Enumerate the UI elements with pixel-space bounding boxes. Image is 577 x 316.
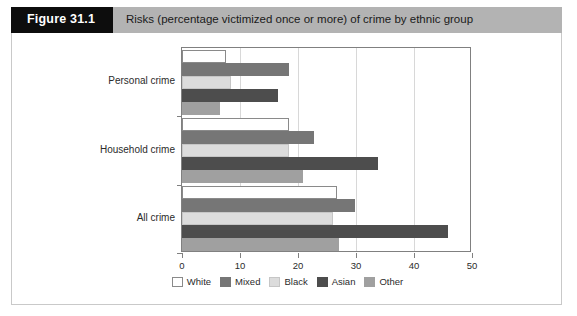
legend-label-mixed: Mixed (235, 276, 260, 287)
x-axis-tick-30 (356, 253, 357, 258)
bar-personal-crime-white (182, 50, 226, 63)
bar-personal-crime-asian (182, 89, 278, 102)
legend-label-other: Other (379, 276, 403, 287)
figure-caption: Risks (percentage victimized once or mor… (126, 13, 473, 25)
gridline-30 (356, 48, 357, 251)
category-label-all-crime: All crime (137, 212, 175, 223)
x-axis-label-50: 50 (467, 260, 478, 271)
x-axis-tick-0 (182, 253, 183, 258)
figure-number-box: Figure 31.1 (11, 7, 113, 33)
figure-header-band: Figure 31.1 Risks (percentage victimized… (11, 7, 562, 33)
legend-swatch-asian-icon (317, 277, 328, 287)
category-axis-labels: Personal crimeHousehold crimeAll crime (12, 47, 175, 252)
x-axis-tick-50 (472, 253, 473, 258)
legend-swatch-white-icon (172, 277, 183, 287)
figure-number-label: Figure 31.1 (27, 12, 95, 26)
legend-label-black: Black (284, 276, 307, 287)
y-axis-tick (177, 116, 182, 117)
gridline-40 (414, 48, 415, 251)
legend-item-other[interactable]: Other (364, 276, 403, 287)
bar-household-crime-black (182, 144, 289, 157)
y-axis-tick (177, 185, 182, 186)
chart-legend: WhiteMixedBlackAsianOther (12, 276, 563, 287)
figure-card: Figure 31.1 Risks (percentage victimized… (0, 0, 577, 316)
legend-item-black[interactable]: Black (269, 276, 307, 287)
category-label-household-crime: Household crime (100, 144, 175, 155)
x-axis-tick-20 (298, 253, 299, 258)
bar-chart: Personal crimeHousehold crimeAll crime 0… (12, 33, 563, 305)
x-axis-label-10: 10 (235, 260, 246, 271)
bar-personal-crime-other (182, 102, 220, 115)
x-axis-label-20: 20 (293, 260, 304, 271)
legend-swatch-mixed-icon (220, 277, 231, 287)
legend-label-white: White (187, 276, 211, 287)
legend-label-asian: Asian (332, 276, 356, 287)
x-axis-tick-40 (414, 253, 415, 258)
x-axis-tick-10 (240, 253, 241, 258)
x-axis-label-30: 30 (351, 260, 362, 271)
legend-swatch-other-icon (364, 277, 375, 287)
bar-all-crime-black (182, 212, 333, 225)
legend-item-mixed[interactable]: Mixed (220, 276, 260, 287)
bar-all-crime-asian (182, 225, 448, 238)
legend-swatch-black-icon (269, 277, 280, 287)
bar-household-crime-asian (182, 157, 378, 170)
bar-personal-crime-mixed (182, 63, 289, 76)
category-label-personal-crime: Personal crime (108, 75, 175, 86)
x-axis-label-0: 0 (179, 260, 184, 271)
bar-household-crime-white (182, 118, 289, 131)
plot-area: 01020304050 (181, 47, 471, 252)
bar-all-crime-white (182, 186, 337, 199)
figure-body: Personal crimeHousehold crimeAll crime 0… (11, 33, 562, 305)
bar-all-crime-mixed (182, 199, 355, 212)
bar-household-crime-other (182, 170, 303, 183)
bar-all-crime-other (182, 238, 339, 251)
legend-item-white[interactable]: White (172, 276, 211, 287)
bar-personal-crime-black (182, 76, 231, 89)
legend-item-asian[interactable]: Asian (317, 276, 356, 287)
bar-household-crime-mixed (182, 131, 314, 144)
x-axis-label-40: 40 (409, 260, 420, 271)
